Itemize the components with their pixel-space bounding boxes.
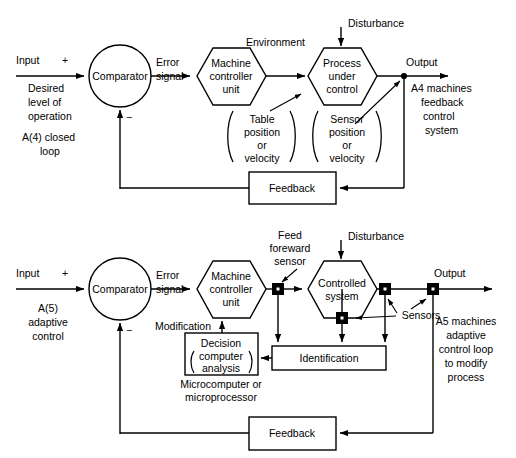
a5-comparator-label: Comparator [92,283,148,295]
a5-feed-forward-line-1: Feed [278,229,302,241]
a5-right-note-line-5: process [448,371,485,383]
a5-micro-note-line-2: microprocessor [185,391,257,403]
a4-comparator-label: Comparator [92,70,148,82]
a4-right-note-line-2: feedback [421,96,464,108]
a4-table-note-line-4: velocity [244,152,280,164]
a4-process-line-2: under [329,70,356,82]
a5-right-note-line-4: to modify [445,357,488,369]
a5-sensor-node-3-center [384,288,387,291]
a5-machine-line-2: controller [209,283,253,295]
a5-sensors-label: Sensors [402,309,441,321]
a5-id-note-line-3: control [32,330,64,342]
a4-id-note-line-1: A(4) closed [22,131,75,143]
a5-sensor-node-2-center [341,317,344,320]
a4-environment-label: Environment [246,36,305,48]
a5-micro-note-line-1: Microcomputer or [180,378,262,390]
a5-output-label: Output [434,267,466,279]
a5-error-label-1: Error [156,269,180,281]
a5-machine-line-3: unit [223,296,240,308]
a5-identification-label: Identification [300,352,359,364]
a4-disturbance-label: Disturbance [348,17,404,29]
a5-right-note-line-3: control loop [439,343,493,355]
a5-sensor-node-3 [379,283,391,295]
a4-table-note-line-3: or [257,139,267,151]
a4-process-line-1: Process [323,57,361,69]
a4-table-note-line-1: Table [249,113,274,125]
a4-id-note-line-2: loop [40,145,60,157]
a5-feed-forward-line-2: foreward [270,242,311,254]
a4-plus-sign: + [62,54,68,66]
a5-sensor-node-2 [336,312,348,324]
a5-id-note-line-1: A(5) [38,302,58,314]
a5-disturbance-label: Disturbance [348,230,404,242]
a4-left-note-line-3: operation [28,110,72,122]
a5-modification-label: Modification [155,320,211,332]
a4-process-line-3: control [326,83,358,95]
a5-right-note-line-2: adaptive [446,329,486,341]
a4-left-note-line-2: level of [28,96,61,108]
a4-error-label-2: signal [156,70,183,82]
a4-right-note-line-1: A4 machines [411,82,472,94]
a4-output-label: Output [406,56,438,68]
a5-sensor-node-1 [272,283,284,295]
a5-sensor-node-1-center [277,288,280,291]
a4-left-note-line-1: Desired [28,82,64,94]
a5-plus-sign: + [62,267,68,279]
a5-input-label: Input [16,267,39,279]
a4-machine-line-2: controller [209,70,253,82]
a4-sensor-note-line-2: position [329,126,365,138]
a4-sensor-note-line-3: or [342,139,352,151]
a4-table-note-line-2: position [244,126,280,138]
a5-error-label-2: signal [156,283,183,295]
a5-id-note-line-2: adaptive [28,316,68,328]
a5-feed-forward-line-3: sensor [274,255,306,267]
a5-sensor-node-4-center [432,288,435,291]
a5-minus-sign: − [126,324,132,336]
a4-input-label: Input [16,54,39,66]
diagram-canvas: Input + Comparator − Error signal Machin… [0,0,516,458]
a5-right-note-line-1: A5 machines [436,315,497,327]
a5-decision-line-2: computer [199,350,243,362]
a5-controlled-line-1: Controlled [318,277,366,289]
a5-decision-line-1: Decision [201,337,241,349]
a4-sensor-note-line-4: velocity [329,152,365,164]
a5-machine-line-1: Machine [211,270,251,282]
a4-feedback-label: Feedback [269,182,316,194]
a4-right-note-line-4: system [425,124,459,136]
a5-decision-line-3: analysis [202,362,240,374]
a4-sensor-note-line-1: Sensor [330,113,364,125]
control-systems-block-diagram: Input + Comparator − Error signal Machin… [0,0,516,458]
a5-feedback-label: Feedback [269,427,316,439]
a4-machine-line-1: Machine [211,57,251,69]
a4-error-label-1: Error [156,56,180,68]
a4-machine-line-3: unit [223,83,240,95]
a4-minus-sign: − [126,111,132,123]
a4-right-note-line-3: control [423,110,455,122]
a5-sensor-node-4 [427,283,439,295]
